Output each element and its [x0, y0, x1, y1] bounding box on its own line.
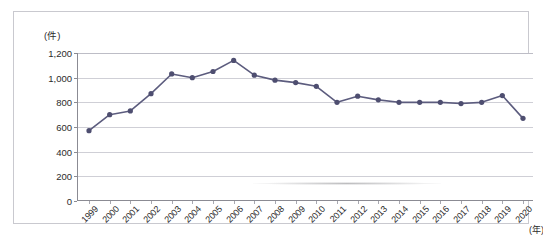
- x-tick-label-2000: 2000: [100, 204, 121, 225]
- x-tick-label-2003: 2003: [162, 204, 183, 225]
- data-point-2016: [438, 100, 443, 105]
- series-line: [89, 60, 523, 130]
- x-tick-label-2005: 2005: [203, 204, 224, 225]
- x-axis-unit-label: (年): [529, 223, 543, 236]
- chart-screenshot: (件) 02004006008001,0001,200 199920002001…: [0, 0, 543, 240]
- x-tick-mark: [172, 201, 173, 204]
- y-tick-label: 600: [56, 122, 72, 133]
- data-point-2003: [169, 71, 174, 76]
- y-tick-label: 800: [56, 97, 72, 108]
- data-point-2010: [314, 84, 319, 89]
- data-point-2000: [107, 112, 112, 117]
- data-point-2014: [396, 100, 401, 105]
- x-tick-label-2018: 2018: [472, 204, 493, 225]
- data-point-2005: [210, 69, 215, 74]
- y-tick-label: 1,000: [48, 72, 72, 83]
- x-tick-mark: [420, 201, 421, 204]
- x-tick-label-2002: 2002: [141, 204, 162, 225]
- data-point-2007: [252, 73, 257, 78]
- x-tick-label-2010: 2010: [307, 204, 328, 225]
- x-tick-mark: [461, 201, 462, 204]
- data-point-2006: [231, 58, 236, 63]
- x-tick-mark: [502, 201, 503, 204]
- x-tick-label-2006: 2006: [224, 204, 245, 225]
- x-tick-label-2015: 2015: [410, 204, 431, 225]
- x-tick-mark: [296, 201, 297, 204]
- data-point-2013: [376, 97, 381, 102]
- data-point-2012: [355, 94, 360, 99]
- x-tick-mark: [234, 201, 235, 204]
- x-tick-mark: [378, 201, 379, 204]
- data-point-2009: [293, 80, 298, 85]
- data-point-2011: [334, 100, 339, 105]
- y-tick-label: 400: [56, 146, 72, 157]
- y-tick-label: 1,200: [48, 48, 72, 59]
- x-tick-label-2008: 2008: [265, 204, 286, 225]
- data-point-2001: [128, 108, 133, 113]
- x-tick-label-2017: 2017: [451, 204, 472, 225]
- x-tick-mark: [151, 201, 152, 204]
- x-tick-label-1999: 1999: [79, 204, 100, 225]
- y-tick-label: 0: [67, 196, 72, 207]
- data-point-1999: [86, 128, 91, 133]
- data-point-2017: [458, 101, 463, 106]
- x-tick-label-2016: 2016: [431, 204, 452, 225]
- x-tick-label-2014: 2014: [389, 204, 410, 225]
- x-tick-label-2001: 2001: [121, 204, 142, 225]
- x-tick-mark: [275, 201, 276, 204]
- data-point-2015: [417, 100, 422, 105]
- x-tick-mark: [316, 201, 317, 204]
- data-point-2008: [272, 78, 277, 83]
- x-tick-label-2007: 2007: [245, 204, 266, 225]
- chart-frame: (件) 02004006008001,0001,200 199920002001…: [13, 11, 529, 224]
- x-tick-label-2004: 2004: [183, 204, 204, 225]
- x-tick-label-2012: 2012: [348, 204, 369, 225]
- x-tick-label-2009: 2009: [286, 204, 307, 225]
- x-tick-mark: [440, 201, 441, 204]
- y-tick-label: 200: [56, 171, 72, 182]
- x-tick-mark: [399, 201, 400, 204]
- data-point-2019: [500, 93, 505, 98]
- x-tick-mark: [110, 201, 111, 204]
- y-tick-mark: [74, 201, 77, 202]
- y-axis-unit-label: (件): [44, 28, 60, 42]
- x-tick-mark: [89, 201, 90, 204]
- data-point-2020: [520, 116, 525, 121]
- x-tick-mark: [130, 201, 131, 204]
- line-series: [77, 53, 533, 201]
- data-point-2002: [148, 91, 153, 96]
- data-point-2018: [479, 100, 484, 105]
- x-tick-label-2013: 2013: [369, 204, 390, 225]
- x-tick-mark: [337, 201, 338, 204]
- x-tick-mark: [254, 201, 255, 204]
- x-tick-mark: [358, 201, 359, 204]
- x-tick-mark: [523, 201, 524, 204]
- plot-area: 02004006008001,0001,200 1999200020012002…: [77, 53, 533, 201]
- x-tick-label-2011: 2011: [328, 204, 348, 224]
- x-tick-mark: [482, 201, 483, 204]
- x-tick-label-2019: 2019: [493, 204, 514, 225]
- x-tick-label-2020: 2020: [513, 204, 534, 225]
- data-point-2004: [190, 75, 195, 80]
- x-tick-mark: [213, 201, 214, 204]
- x-tick-mark: [192, 201, 193, 204]
